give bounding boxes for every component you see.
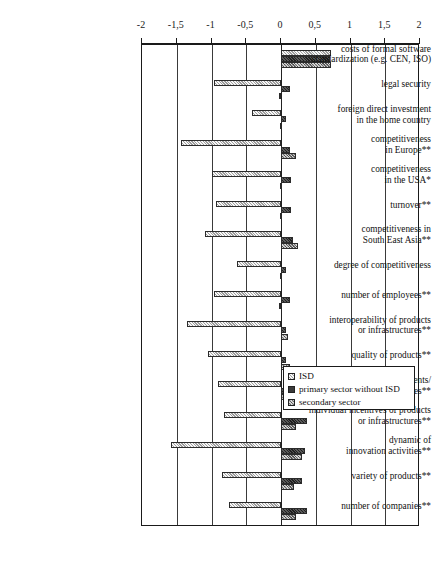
- category-label-line: variety of products**: [298, 471, 431, 482]
- category-label-line: or infrastructures**: [298, 416, 431, 427]
- category-label: legal security: [298, 79, 436, 90]
- legend-item: primary sector without ISD: [288, 383, 410, 396]
- category-label-line: standardization (e.g. CEN, ISO): [298, 54, 431, 65]
- category-label-line: competitiveness: [298, 164, 431, 175]
- category-label: interoperability of productsor infrastru…: [298, 315, 436, 336]
- gridline: [246, 45, 247, 525]
- category-label: competitivenessin Europe**: [298, 134, 436, 155]
- bar-primary: [281, 116, 286, 122]
- x-axis-tick-label: -1: [196, 20, 226, 30]
- category-label-line: innovation activities**: [298, 446, 431, 457]
- category-label-line: or infrastructures**: [298, 325, 431, 336]
- x-axis-tick-label: 1,5: [369, 20, 399, 30]
- category-label: foreign direct investmentin the home cou…: [298, 104, 436, 125]
- legend-swatch-primary-icon: [288, 386, 295, 393]
- bar-primary: [281, 177, 291, 183]
- chart-legend: ISD primary sector without ISD secondary…: [283, 366, 415, 410]
- bar-secondary: [279, 303, 281, 309]
- category-label-line: costs of formal software: [298, 44, 431, 55]
- category-label: competitivenessin the USA*: [298, 164, 436, 185]
- bar-secondary: [279, 93, 281, 99]
- category-label-line: in the USA*: [298, 175, 431, 186]
- gridline: [177, 45, 178, 525]
- horizontal-bar-chart: -2-1,5-1-0,500,511,52 costs of formal so…: [0, 0, 436, 564]
- category-label: degree of competitiveness: [298, 260, 436, 271]
- bar-isd: [171, 442, 281, 448]
- x-axis-tick-label: 1: [335, 20, 365, 30]
- x-axis-tick-label: 0: [265, 20, 295, 30]
- bar-secondary: [281, 153, 296, 159]
- bar-isd: [224, 412, 281, 418]
- legend-item: secondary sector: [288, 396, 410, 409]
- bar-isd: [205, 231, 281, 237]
- category-label: number of companies**: [298, 501, 436, 512]
- category-label-line: number of companies**: [298, 501, 431, 512]
- bar-secondary: [280, 183, 282, 189]
- bar-secondary: [280, 213, 282, 219]
- bar-isd: [214, 80, 281, 86]
- x-axis-tick-label: -2: [126, 20, 156, 30]
- bar-primary: [281, 267, 286, 273]
- bar-isd: [212, 171, 282, 177]
- bar-secondary: [281, 514, 296, 520]
- bar-isd: [252, 110, 281, 116]
- bar-isd: [181, 140, 281, 146]
- category-label: variety of products**: [298, 471, 436, 482]
- category-label: number of employees**: [298, 290, 436, 301]
- category-label-line: degree of competitiveness: [298, 260, 431, 271]
- bar-secondary: [280, 273, 282, 279]
- category-label-line: legal security: [298, 79, 431, 90]
- bar-isd: [214, 291, 281, 297]
- bar-isd: [216, 201, 281, 207]
- bar-secondary: [281, 334, 288, 340]
- bar-isd: [237, 261, 281, 267]
- bar-isd: [229, 502, 281, 508]
- bar-primary: [281, 327, 286, 333]
- gridline: [212, 45, 213, 525]
- x-axis-tick-label: 0,5: [300, 20, 330, 30]
- category-label: dynamic ofinnovation activities**: [298, 435, 436, 456]
- bar-secondary: [281, 243, 298, 249]
- category-label-line: competitiveness: [298, 134, 431, 145]
- legend-item: ISD: [288, 370, 410, 383]
- category-label: quality of products**: [298, 350, 436, 361]
- category-label-line: competitiveness in: [298, 224, 431, 235]
- bar-primary: [281, 147, 290, 153]
- bar-isd: [208, 351, 281, 357]
- legend-swatch-secondary-icon: [288, 399, 295, 406]
- category-label-line: in the home country: [298, 115, 431, 126]
- x-axis-tick-label: 2: [404, 20, 434, 30]
- category-label-line: dynamic of: [298, 435, 431, 446]
- bar-primary: [281, 207, 291, 213]
- category-label-line: quality of products**: [298, 350, 431, 361]
- category-label: turnover**: [298, 200, 436, 211]
- legend-swatch-isd-icon: [288, 373, 295, 380]
- bar-isd: [218, 381, 281, 387]
- bar-isd: [187, 321, 281, 327]
- x-axis-tick-label: -0,5: [230, 20, 260, 30]
- category-label-line: number of employees**: [298, 290, 431, 301]
- bar-secondary: [280, 123, 282, 129]
- bar-isd: [222, 472, 281, 478]
- category-label: costs of formal softwarestandardization …: [298, 44, 436, 65]
- bar-primary: [281, 237, 293, 243]
- category-label-line: interoperability of products: [298, 315, 431, 326]
- category-label-line: foreign direct investment: [298, 104, 431, 115]
- category-label-line: in Europe**: [298, 145, 431, 156]
- legend-label: ISD: [299, 370, 314, 383]
- x-axis-tick-label: -1,5: [161, 20, 191, 30]
- bar-secondary: [281, 424, 296, 430]
- bar-primary: [281, 86, 290, 92]
- category-label-line: South East Asia**: [298, 235, 431, 246]
- bar-primary: [281, 357, 286, 363]
- legend-label: primary sector without ISD: [299, 383, 400, 396]
- legend-label: secondary sector: [299, 396, 360, 409]
- bar-primary: [281, 297, 290, 303]
- bar-secondary: [281, 484, 294, 490]
- category-label: competitiveness inSouth East Asia**: [298, 224, 436, 245]
- category-label-line: turnover**: [298, 200, 431, 211]
